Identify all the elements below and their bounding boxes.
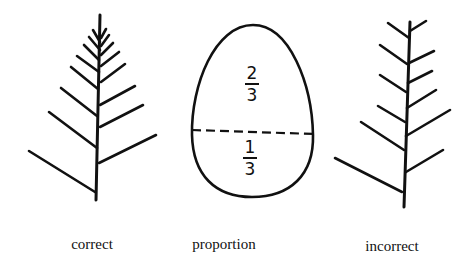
label-incorrect: incorrect — [365, 238, 418, 255]
branch-line — [408, 71, 432, 83]
label-proportion: proportion — [192, 236, 255, 253]
fraction-denominator: 3 — [245, 159, 256, 179]
diagram-canvas — [0, 0, 469, 273]
branch-line — [406, 150, 443, 172]
branch-line — [29, 151, 95, 192]
branch-line — [410, 21, 426, 31]
branch-line — [71, 67, 98, 89]
branch-line — [49, 112, 97, 148]
branch-line — [335, 158, 402, 192]
branch-line — [100, 105, 143, 127]
fraction-two-thirds: 2 3 — [245, 64, 259, 104]
trunk-line — [404, 22, 410, 207]
branch-line — [406, 110, 450, 136]
branch-line — [101, 29, 106, 38]
branch-line — [409, 51, 434, 63]
branch-line — [378, 106, 405, 122]
branch-line — [388, 23, 409, 38]
fir-branch-correct-icon — [29, 15, 156, 200]
branch-line — [101, 64, 125, 82]
branch-line — [61, 88, 97, 116]
fraction-numerator: 1 — [245, 137, 256, 157]
branch-line — [407, 90, 436, 108]
fraction-denominator: 3 — [247, 85, 258, 105]
branch-line — [100, 86, 135, 105]
branch-line — [380, 75, 406, 92]
fraction-numerator: 2 — [247, 63, 258, 83]
branch-line — [380, 45, 407, 64]
fir-branch-incorrect-icon — [335, 21, 450, 207]
branch-line — [361, 122, 404, 150]
label-correct: correct — [71, 236, 113, 253]
branch-line — [99, 135, 156, 163]
fraction-one-third: 1 3 — [243, 138, 257, 178]
proportion-divider-line — [192, 130, 314, 134]
